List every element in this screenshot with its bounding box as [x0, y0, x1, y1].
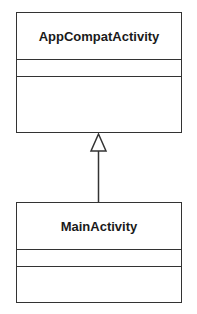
hollow-triangle-icon — [91, 134, 106, 151]
operations-compartment — [17, 266, 181, 302]
attributes-compartment — [17, 249, 181, 266]
class-name: MainActivity — [17, 203, 181, 249]
class-box-mainactivity: MainActivity — [16, 202, 182, 303]
